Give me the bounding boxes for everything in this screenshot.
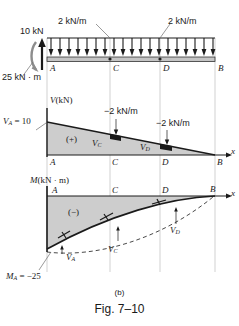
beam-point-d: D bbox=[163, 64, 170, 73]
moment-point-d: D bbox=[162, 186, 169, 195]
shear-slope-label-right: −2 kN/m bbox=[156, 119, 190, 128]
shear-point-c: C bbox=[112, 158, 118, 167]
shear-slope-label-left: −2 kN/m bbox=[104, 107, 138, 116]
station-dot-c bbox=[108, 57, 111, 60]
reaction-moment-arrow bbox=[32, 42, 39, 72]
moment-point-c: C bbox=[112, 186, 118, 195]
beam-point-c: C bbox=[113, 64, 119, 73]
moment-x-label: x bbox=[231, 189, 235, 198]
moment-point-a: A bbox=[52, 186, 58, 195]
part-label: (b) bbox=[0, 288, 239, 297]
moment-point-b: B bbox=[210, 185, 216, 194]
shear-axis-label: V(kN) bbox=[50, 96, 73, 105]
shear-x-label: x bbox=[231, 147, 235, 156]
moment-axis-units: (kN · m) bbox=[38, 175, 70, 185]
moment-axis-label: M(kN · m) bbox=[30, 176, 69, 185]
vd-label: VD bbox=[140, 143, 150, 152]
beam-point-b: B bbox=[218, 64, 224, 73]
va-leader-line bbox=[36, 123, 46, 130]
distributed-load-label-left: 2 kN/m bbox=[58, 17, 87, 26]
shear-axis-units: (kN) bbox=[56, 95, 73, 105]
moment-slope-va-label: VA bbox=[66, 253, 75, 262]
ma-value-label: MA = −25 bbox=[6, 272, 41, 281]
shear-sign-label: (+) bbox=[66, 135, 77, 144]
distributed-load-arrows bbox=[49, 38, 216, 56]
va-value-label: VA = 10 bbox=[3, 117, 31, 126]
moment-slope-vc-label: VC bbox=[108, 245, 118, 254]
shear-point-a: A bbox=[50, 158, 56, 167]
station-dot-d bbox=[158, 57, 161, 60]
reaction-moment-label: 25 kN · m bbox=[2, 73, 41, 82]
moment-slope-vd-label: VD bbox=[170, 226, 180, 235]
reaction-force-label: 10 kN bbox=[20, 27, 44, 36]
load-leader-right bbox=[160, 24, 170, 38]
beam-point-a: A bbox=[50, 64, 56, 73]
distributed-load-label-right: 2 kN/m bbox=[168, 17, 197, 26]
load-leader-left bbox=[96, 24, 110, 38]
figure-caption: Fig. 7–10 bbox=[0, 302, 239, 316]
reaction-force-arrow bbox=[38, 38, 46, 70]
shear-point-d: D bbox=[162, 158, 169, 167]
vc-label: VC bbox=[92, 139, 102, 148]
moment-sign-label: (−) bbox=[68, 208, 79, 217]
beam-body bbox=[47, 57, 215, 62]
shear-point-b: B bbox=[217, 158, 223, 167]
moment-shaded-area bbox=[47, 196, 215, 249]
ma-leader-line bbox=[39, 252, 51, 270]
